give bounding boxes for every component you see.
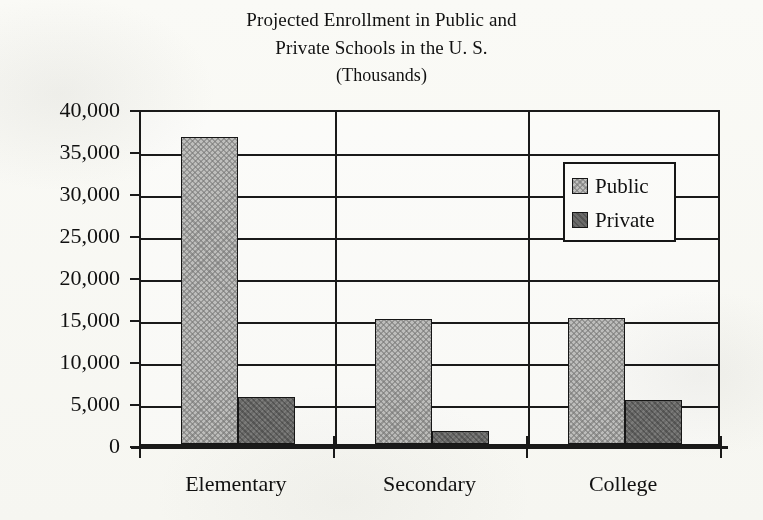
x-axis-label-secondary: Secondary — [383, 472, 476, 496]
plot-area — [139, 110, 720, 446]
y-tick-label: 25,000 — [2, 225, 130, 247]
y-axis: 40,00035,00030,00025,00020,00015,00010,0… — [0, 0, 130, 520]
y-tick-mark — [130, 278, 139, 280]
x-tick-mark — [526, 436, 528, 458]
legend-swatch-icon-public — [572, 178, 588, 194]
x-axis-label-elementary: Elementary — [185, 472, 286, 496]
y-tick-label: 20,000 — [2, 267, 130, 289]
y-tick-label: 35,000 — [2, 141, 130, 163]
bar-chart: Projected Enrollment in Public and Priva… — [0, 0, 763, 520]
y-tick-label: 15,000 — [2, 309, 130, 331]
legend-label: Public — [595, 176, 649, 197]
y-tick-label: 0 — [2, 435, 130, 457]
bar-secondary-public — [375, 319, 432, 444]
bar-elementary-private — [238, 397, 295, 444]
y-tick-mark — [130, 362, 139, 364]
legend-label: Private — [595, 210, 654, 231]
gridline-x-College — [528, 112, 530, 444]
legend-item-public[interactable]: Public — [572, 169, 674, 203]
y-tick-mark — [130, 320, 139, 322]
y-tick-label: 5,000 — [2, 393, 130, 415]
x-tick-mark — [333, 436, 335, 458]
x-axis-baseline — [131, 446, 728, 449]
bar-college-private — [625, 400, 682, 444]
legend-swatch-icon-private — [572, 212, 588, 228]
x-tick-mark — [720, 436, 722, 458]
bar-secondary-private — [432, 431, 489, 444]
legend: PublicPrivate — [563, 162, 676, 242]
y-tick-mark — [130, 152, 139, 154]
y-tick-mark — [130, 194, 139, 196]
bar-elementary-public — [181, 137, 238, 444]
y-tick-mark — [130, 404, 139, 406]
y-tick-mark — [130, 110, 139, 112]
y-tick-label: 30,000 — [2, 183, 130, 205]
y-tick-label: 10,000 — [2, 351, 130, 373]
bar-college-public — [568, 318, 625, 444]
gridline-x-Secondary — [335, 112, 337, 444]
y-tick-mark — [130, 236, 139, 238]
x-tick-mark — [139, 436, 141, 458]
legend-item-private[interactable]: Private — [572, 203, 674, 237]
y-tick-label: 40,000 — [2, 99, 130, 121]
x-axis-label-college: College — [589, 472, 657, 496]
